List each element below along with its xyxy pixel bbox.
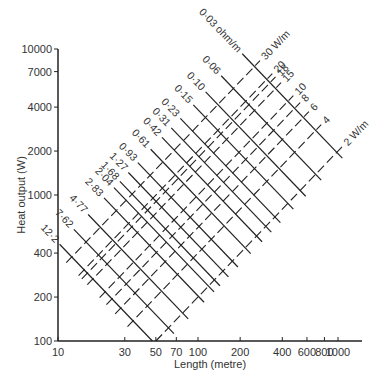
resistance-label: 0·03 ohm/m [197,6,245,55]
resistance-label: 0·15 [172,82,195,106]
x-tick-label: 10 [52,346,64,358]
resistance-line [221,76,321,180]
resistance-line [128,173,228,277]
y-tick-label: 100 [34,335,52,347]
resistance-line [180,118,280,222]
y-tick-label: 10000 [21,43,52,55]
x-tick-label: 400 [273,346,291,358]
axes [58,49,362,341]
loading-label: 6 [307,100,320,113]
loading-label: 30 W/m [258,27,292,62]
x-tick-label: 200 [231,346,249,358]
x-axis-title: Length (metre) [174,358,246,370]
y-tick-label: 7000 [28,66,52,78]
x-ticks: 103050701002004006008001000 [52,337,350,358]
y-tick-label: 4000 [28,101,52,113]
y-tick-label: 200 [34,291,52,303]
loading-label: 4 [320,113,333,126]
x-tick-label: 600 [298,346,316,358]
x-tick-label: 1000 [326,346,350,358]
resistance-line [60,244,153,341]
x-tick-label: 70 [170,346,182,358]
resistance-line [151,149,251,253]
resistance-line [120,181,220,285]
nomogram-chart: 100200400100020004000700010000 103050701… [0,0,385,389]
resistance-line [242,54,342,158]
x-tick-label: 30 [119,346,131,358]
resistance-line [206,92,306,196]
resistance-line [193,105,293,209]
resistance-line [104,198,204,302]
resistance-line [138,163,238,267]
y-tick-label: 1000 [28,189,52,201]
resistance-line [88,214,188,318]
x-tick-label: 50 [150,346,162,358]
y-tick-label: 2000 [28,145,52,157]
loading-label: 2 W/m [341,117,371,147]
resistance-line [74,229,174,333]
x-tick-label: 100 [189,346,207,358]
resistance-label: 4·77 [67,192,90,216]
loading-line [156,147,342,341]
resistance-label: 0·06 [200,53,223,77]
y-axis-title: Heat output (W) [15,156,27,234]
resistance-line [171,128,271,232]
y-tick-label: 400 [34,247,52,259]
resistance-label: 7·62 [53,206,76,230]
resistance-line [162,137,262,241]
resistance-line [114,188,214,292]
